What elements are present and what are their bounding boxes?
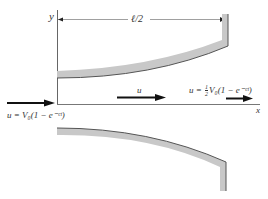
- x-axis-label: x: [256, 106, 260, 115]
- fraction-numerator: 1: [205, 84, 208, 91]
- middle-velocity-label: u: [137, 86, 142, 95]
- outlet-label-prefix: u =: [189, 85, 204, 95]
- nozzle-diagram: [0, 0, 268, 199]
- outlet-label-suffix: V₀(1 − e⁻ᶜᵗ): [209, 85, 252, 95]
- outlet-label-fraction: 12: [205, 84, 208, 97]
- lower-wall: [57, 128, 226, 191]
- inlet-velocity-label: u = V₀(1 − e⁻ᶜᵗ): [7, 111, 65, 120]
- dimension-label: ℓ/2: [131, 14, 143, 24]
- middle-flow-arrow: [117, 94, 166, 101]
- y-axis-label: y: [49, 11, 54, 22]
- inlet-flow-arrow: [7, 100, 55, 107]
- fraction-denominator: 2: [205, 91, 208, 97]
- outlet-velocity-label: u = 12V₀(1 − e⁻ᶜᵗ): [189, 84, 252, 97]
